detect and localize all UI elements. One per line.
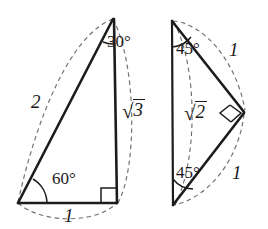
radicand-3: 3 <box>133 99 146 119</box>
left-angle-label-60: 60° <box>52 170 76 187</box>
special-right-triangles-figure: 2 30° 60° 1 √3 45° 45° 1 1 √2 <box>0 0 268 229</box>
right-side-label-lower-1: 1 <box>232 163 242 182</box>
right-side-label-upper-1: 1 <box>229 40 239 59</box>
right-right-angle-marker-outer <box>220 105 231 122</box>
left-angle-label-30: 30° <box>107 33 131 50</box>
radicand-2: 2 <box>195 101 208 121</box>
right-triangle-upper-leg <box>172 21 244 112</box>
left-angle-arc-60 <box>33 179 47 203</box>
left-side-label-base: 1 <box>64 206 74 225</box>
right-side-label-sqrt2: √2 <box>184 102 207 123</box>
sqrt-symbol-2: √2 <box>184 102 207 123</box>
right-angle-label-45-bottom: 45° <box>176 164 200 181</box>
sqrt-symbol-3: √3 <box>122 100 145 121</box>
left-side-label-hypotenuse: 2 <box>31 92 41 111</box>
right-triangle-vertical <box>172 21 173 205</box>
right-triangle-lower-leg <box>173 113 244 205</box>
right-angle-label-45-top: 45° <box>176 40 200 57</box>
left-side-label-sqrt3: √3 <box>122 100 145 121</box>
left-right-angle-marker <box>101 188 116 203</box>
